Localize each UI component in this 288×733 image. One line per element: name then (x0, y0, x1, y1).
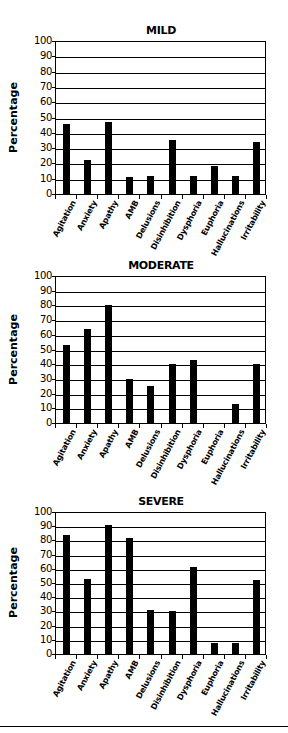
y-tick-label: 90 (24, 51, 52, 61)
bar-hallucinations (232, 404, 239, 423)
plot-area (55, 512, 266, 654)
x-tick-label: Apathy (97, 199, 119, 230)
bar-disinhibition (169, 140, 176, 194)
bar-hallucinations (232, 643, 239, 654)
y-tick-label: 80 (24, 300, 52, 310)
x-axis (55, 194, 266, 195)
bar-dysphoria (190, 360, 197, 423)
bar-irritability (253, 142, 260, 194)
x-tick-mark (203, 655, 204, 659)
bar-disinhibition (169, 364, 176, 423)
x-tick-mark (97, 655, 98, 659)
y-tick-label: 60 (24, 97, 52, 107)
bar-agitation (63, 124, 70, 194)
gridline (56, 57, 265, 58)
x-tick-label: Apathy (97, 659, 119, 690)
gridline (56, 73, 265, 74)
x-tick-mark (76, 195, 77, 199)
bar-anxiety (84, 329, 91, 423)
y-tick-label: 10 (24, 403, 52, 413)
y-tick-label: 0 (24, 418, 52, 428)
gridline (56, 556, 265, 557)
gridline (56, 292, 265, 293)
gridline (56, 570, 265, 571)
y-tick-label: 40 (24, 592, 52, 602)
x-tick-mark (76, 424, 77, 428)
gridline (56, 88, 265, 89)
gridline (56, 103, 265, 104)
bar-agitation (63, 535, 70, 654)
x-tick-label: Agitation (51, 428, 78, 467)
x-tick-label: AMB (124, 659, 141, 681)
y-tick-label: 10 (24, 635, 52, 645)
x-tick-mark (245, 424, 246, 428)
x-tick-mark (182, 424, 183, 428)
plot-area (55, 276, 266, 423)
bar-agitation (63, 345, 70, 423)
chart-title: SEVERE (55, 495, 267, 508)
x-tick-label: Anxiety (75, 428, 98, 461)
bar-amb (126, 177, 133, 194)
bar-apathy (105, 122, 112, 194)
x-tick-mark (203, 195, 204, 199)
x-tick-mark (139, 195, 140, 199)
x-tick-mark (266, 424, 267, 428)
gridline (56, 119, 265, 120)
x-tick-mark (224, 195, 225, 199)
y-tick-label: 20 (24, 389, 52, 399)
y-tick-label: 10 (24, 174, 52, 184)
bar-amb (126, 538, 133, 654)
plot-area (55, 41, 266, 194)
gridline (56, 321, 265, 322)
x-tick-mark (182, 655, 183, 659)
y-tick-label: 50 (24, 113, 52, 123)
y-tick-label: 40 (24, 359, 52, 369)
bar-delusions (147, 176, 154, 194)
y-tick-label: 80 (24, 67, 52, 77)
y-tick-label: 30 (24, 606, 52, 616)
chart-title: MILD (55, 24, 267, 37)
y-tick-label: 70 (24, 82, 52, 92)
bar-dysphoria (190, 567, 197, 654)
x-tick-mark (161, 195, 162, 199)
gridline (56, 541, 265, 542)
bar-anxiety (84, 160, 91, 194)
bar-irritability (253, 580, 260, 654)
x-tick-mark (55, 195, 56, 199)
y-tick-label: 60 (24, 564, 52, 574)
bar-euphoria (211, 166, 218, 194)
y-tick-label: 60 (24, 330, 52, 340)
bar-amb (126, 379, 133, 423)
y-tick-label: 50 (24, 345, 52, 355)
x-tick-label: Agitation (51, 199, 78, 238)
x-axis (55, 654, 266, 655)
bar-apathy (105, 305, 112, 423)
bar-dysphoria (190, 176, 197, 194)
x-tick-label: Anxiety (75, 659, 98, 692)
x-tick-mark (97, 195, 98, 199)
x-tick-mark (161, 655, 162, 659)
x-tick-mark (139, 655, 140, 659)
bar-delusions (147, 610, 154, 654)
bar-delusions (147, 386, 154, 423)
y-axis-label: Percentage (7, 543, 20, 623)
y-tick-label: 20 (24, 621, 52, 631)
y-axis-label: Percentage (7, 309, 20, 389)
bar-hallucinations (232, 176, 239, 194)
y-tick-label: 30 (24, 374, 52, 384)
x-tick-mark (266, 655, 267, 659)
y-tick-label: 90 (24, 521, 52, 531)
x-tick-mark (76, 655, 77, 659)
x-tick-mark (118, 424, 119, 428)
x-tick-mark (245, 655, 246, 659)
gridline (56, 149, 265, 150)
gridline (56, 134, 265, 135)
x-tick-mark (118, 195, 119, 199)
x-tick-mark (97, 424, 98, 428)
y-tick-label: 100 (24, 36, 52, 46)
bar-apathy (105, 525, 112, 654)
x-tick-mark (55, 655, 56, 659)
x-axis (55, 423, 266, 424)
y-tick-label: 20 (24, 158, 52, 168)
x-tick-label: Anxiety (75, 199, 98, 232)
